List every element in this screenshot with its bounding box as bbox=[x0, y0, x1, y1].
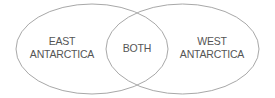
west-label-line-1: WEST bbox=[197, 35, 227, 47]
east-label-line-1: EAST bbox=[49, 35, 76, 47]
east-label-line-2: ANTARCTICA bbox=[30, 48, 95, 60]
west-label-line-2: ANTARCTICA bbox=[180, 48, 245, 60]
both-label: BOTH bbox=[123, 42, 151, 54]
venn-diagram: EAST ANTARCTICA BOTH WEST ANTARCTICA bbox=[0, 0, 275, 98]
